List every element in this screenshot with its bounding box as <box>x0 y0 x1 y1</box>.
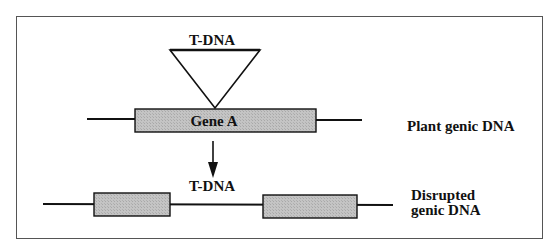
gene-fragment-right <box>263 195 357 218</box>
gene-fragment-left <box>94 193 170 216</box>
diagram-canvas: T-DNA Gene A Plant genic DNA T-DNA Disru… <box>0 0 558 248</box>
plant-genic-dna-label: Plant genic DNA <box>407 118 515 134</box>
bottom-tdna-label: T-DNA <box>189 178 235 194</box>
gene-a-label: Gene A <box>190 113 237 129</box>
top-tdna-label: T-DNA <box>189 32 235 48</box>
disrupted-label-line1: Disrupted <box>411 187 476 203</box>
disrupted-label-line2: genic DNA <box>411 202 481 218</box>
